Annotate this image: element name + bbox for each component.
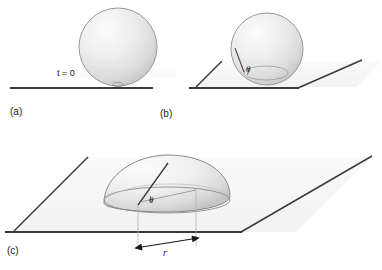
panel-c-label: (c)	[7, 245, 19, 256]
droplet-spreading-figure: θ θ r t = 0 (a) (b) (c)	[0, 0, 382, 270]
panel-a-time-label: t = 0	[57, 68, 75, 78]
panel-c-theta-label: θ	[149, 195, 154, 205]
panel-c-radius-dimension-arrow	[142, 239, 192, 247]
panel-b-sphere	[231, 13, 303, 85]
panel-b-label: (b)	[160, 108, 172, 119]
panel-b-theta-label: θ	[246, 64, 251, 74]
panel-a	[11, 8, 176, 88]
panel-b: θ	[190, 13, 382, 88]
panel-c: θ r	[6, 155, 372, 258]
panel-c-radius-label: r	[163, 247, 167, 258]
panel-a-label: (a)	[10, 106, 22, 117]
panel-a-sphere	[79, 8, 157, 86]
